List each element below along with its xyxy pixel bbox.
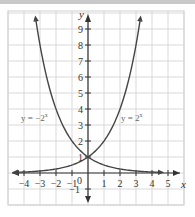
- y-tick-label: 1: [78, 152, 83, 163]
- x-tick-label: −4: [19, 178, 30, 189]
- y-tick-label: 2: [78, 136, 83, 147]
- y-tick-label: 4: [78, 104, 83, 115]
- y-tick-label: 8: [78, 40, 83, 51]
- exponential-graph: −4−3−2−112345−1123456789 x y 0 y = −2x y…: [0, 0, 195, 217]
- y-axis-arrow-icon: [85, 14, 91, 22]
- y-axis-arrow-down-icon: [85, 196, 91, 203]
- x-tick-label: 2: [118, 178, 123, 189]
- x-tick-label: −2: [51, 178, 62, 189]
- curve-2-pow-x: [13, 21, 140, 173]
- curve-arrow-icon: [33, 15, 39, 21]
- y-axis-label: y: [78, 8, 84, 20]
- y-tick-label: 5: [78, 88, 83, 99]
- x-tick-label: 1: [102, 178, 107, 189]
- y-tick-label: 9: [78, 24, 83, 35]
- curve-2-pow-neg-x: [36, 21, 163, 173]
- curve-label-right: y = 2x: [121, 112, 143, 123]
- x-tick-label: −3: [35, 178, 46, 189]
- y-tick-label: 7: [78, 56, 83, 67]
- x-tick-label: 4: [150, 178, 155, 189]
- x-tick-label: 5: [166, 178, 171, 189]
- curve-arrow-icon: [158, 169, 164, 175]
- origin-label: 0: [77, 175, 82, 186]
- x-axis-label: x: [180, 178, 186, 190]
- y-tick-label: 3: [78, 120, 83, 131]
- curve-label-left: y = −2x: [21, 112, 48, 123]
- grid: [8, 11, 184, 205]
- curve-arrow-icon: [137, 15, 143, 21]
- x-tick-label: 3: [134, 178, 139, 189]
- grid-border: [8, 11, 184, 205]
- y-tick-label: 6: [78, 72, 83, 83]
- x-axis-arrow-icon: [173, 170, 180, 176]
